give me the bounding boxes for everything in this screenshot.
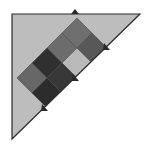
top-edge-arrow-icon (71, 9, 79, 14)
diagram (0, 0, 147, 150)
triangle-lattice-diagram (0, 0, 147, 150)
